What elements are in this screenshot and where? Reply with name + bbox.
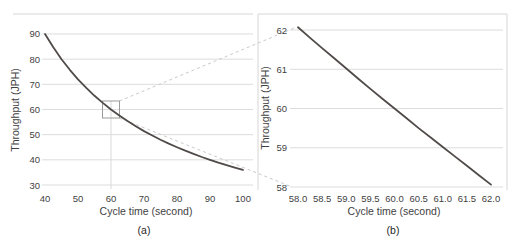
y-tick-label-b: 59	[276, 142, 287, 153]
x-tick-label-b: 61.0	[434, 193, 453, 204]
x-tick-label-b: 60.0	[385, 193, 404, 204]
x-tick-label-b: 58.0	[289, 193, 308, 204]
throughput-vs-cycle-time-zoomed-line	[298, 27, 491, 184]
throughput-vs-cycle-time-line	[45, 34, 243, 170]
y-tick-label-a: 30	[29, 180, 40, 191]
x-tick-label-b: 61.5	[458, 193, 477, 204]
y-tick-label-a: 50	[29, 129, 40, 140]
x-tick-label-a: 60	[106, 193, 117, 204]
panel-a-x-axis-title: Cycle time (second)	[100, 205, 193, 217]
x-tick-label-a: 40	[40, 193, 51, 204]
x-tick-label-a: 50	[73, 193, 84, 204]
x-tick-label-b: 62.0	[482, 193, 501, 204]
y-tick-label-a: 90	[29, 28, 40, 39]
panel-b-caption: (b)	[387, 224, 400, 236]
y-tick-label-b: 58	[276, 182, 287, 193]
panel-a-caption: (a)	[138, 224, 151, 236]
y-tick-label-a: 70	[29, 79, 40, 90]
x-tick-label-b: 60.5	[409, 193, 428, 204]
figure-container: 3040506070809040506070809010058596061625…	[0, 0, 515, 252]
y-tick-label-b: 62	[276, 25, 287, 36]
x-tick-label-a: 80	[172, 193, 183, 204]
y-tick-label-a: 80	[29, 54, 40, 65]
panel-b-x-axis-title: Cycle time (second)	[348, 205, 441, 217]
x-tick-label-a: 100	[235, 193, 251, 204]
x-tick-label-b: 58.5	[313, 193, 332, 204]
y-tick-label-a: 60	[29, 104, 40, 115]
x-tick-label-a: 70	[139, 193, 150, 204]
y-tick-label-a: 40	[29, 154, 40, 165]
panel-b-y-axis-title: Throughput (JPH)	[259, 66, 271, 149]
y-tick-label-b: 60	[276, 103, 287, 114]
y-tick-label-b: 61	[276, 64, 287, 75]
x-tick-label-b: 59.0	[337, 193, 356, 204]
x-tick-label-b: 59.5	[361, 193, 380, 204]
panel-a-y-axis-title: Throughput (JPH)	[9, 68, 21, 151]
x-tick-label-a: 90	[205, 193, 216, 204]
